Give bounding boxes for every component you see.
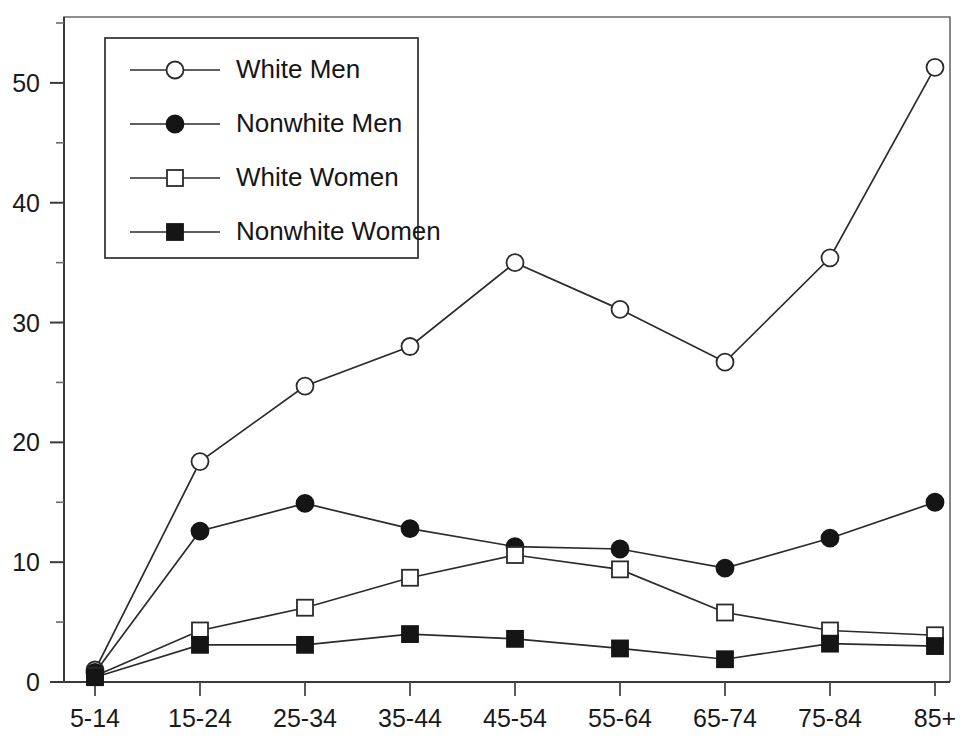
data-point [297,600,313,616]
data-point [822,530,839,547]
chart-legend: White MenNonwhite MenWhite WomenNonwhite… [105,38,441,258]
data-point [507,254,524,271]
series-nonwhite-men [87,494,944,681]
data-point [192,523,209,540]
series-line [95,555,935,676]
data-point [297,495,314,512]
data-point [717,605,733,621]
legend-marker-open-circle [167,62,184,79]
data-point [402,338,419,355]
data-point [507,547,523,563]
data-point [402,626,418,642]
data-point [717,354,734,371]
data-point [507,631,523,647]
y-axis-tick-labels: 01020304050 [12,69,40,696]
legend-label: White Women [236,162,399,192]
x-tick-label: 35-44 [378,704,442,732]
data-point [612,640,628,656]
y-tick-label: 40 [12,189,40,217]
y-tick-label: 50 [12,69,40,97]
data-point [927,494,944,511]
x-axis-tick-labels: 5-1415-2425-3435-4445-5455-6465-7475-848… [70,704,956,732]
legend-marker-filled-square [167,224,183,240]
data-point [402,570,418,586]
data-point [717,560,734,577]
data-point [612,561,628,577]
data-point [612,541,629,558]
x-tick-label: 75-84 [798,704,862,732]
data-point [927,59,944,76]
y-tick-label: 20 [12,428,40,456]
y-axis-ticks [50,23,64,682]
chart-canvas: 01020304050 5-1415-2425-3435-4445-5455-6… [0,0,970,748]
y-tick-label: 0 [26,668,40,696]
legend-marker-filled-circle [167,116,184,133]
x-tick-label: 5-14 [70,704,120,732]
data-point [192,637,208,653]
legend-marker-open-square [167,170,183,186]
data-point [192,453,209,470]
x-axis-ticks [95,682,935,696]
x-tick-label: 25-34 [273,704,337,732]
series-white-women [87,547,943,684]
data-point [822,249,839,266]
y-tick-label: 10 [12,548,40,576]
y-tick-label: 30 [12,309,40,337]
x-tick-label: 55-64 [588,704,652,732]
data-point [87,669,103,685]
x-tick-label: 85+ [914,704,956,732]
series-nonwhite-women [87,626,943,685]
x-tick-label: 65-74 [693,704,757,732]
data-point [927,638,943,654]
x-tick-label: 15-24 [168,704,232,732]
legend-label: White Men [236,54,360,84]
x-tick-label: 45-54 [483,704,547,732]
data-point [297,637,313,653]
data-point [717,651,733,667]
legend-label: Nonwhite Women [236,216,441,246]
line-chart: 01020304050 5-1415-2425-3435-4445-5455-6… [0,0,970,748]
data-point [297,378,314,395]
legend-label: Nonwhite Men [236,108,402,138]
data-point [822,636,838,652]
data-point [402,520,419,537]
data-point [612,301,629,318]
